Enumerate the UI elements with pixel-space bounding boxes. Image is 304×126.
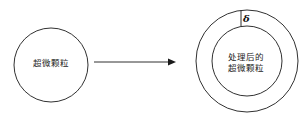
diagram-canvas: 超微颗粒 处理后的 超微颗粒 δ: [0, 0, 304, 126]
right-particle-label-line-2: 超微颗粒: [211, 63, 281, 74]
process-arrow-head: [168, 58, 176, 65]
left-particle-label: 超微颗粒: [14, 58, 88, 69]
right-particle-label: 处理后的 超微颗粒: [211, 52, 281, 73]
right-particle-label-line-1: 处理后的: [211, 52, 281, 63]
coating-thickness-symbol: δ: [243, 13, 250, 25]
